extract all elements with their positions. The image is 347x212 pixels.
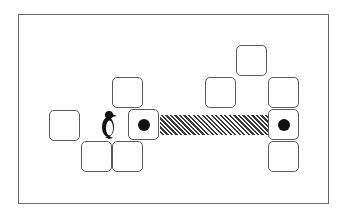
- tile-left-bottom-2: [112, 141, 143, 172]
- tile-left-dot: [128, 109, 159, 140]
- tile-right-mid-left: [205, 77, 236, 108]
- tile-right-dot: [268, 109, 299, 140]
- tile-left-single: [49, 110, 80, 141]
- hatched-bridge: [160, 115, 268, 135]
- tile-right-top: [236, 45, 267, 76]
- penguin-icon: [100, 110, 118, 140]
- tile-left-upper: [112, 77, 143, 108]
- tile-right-col-3: [268, 141, 299, 172]
- target-dot-icon: [278, 119, 290, 131]
- target-dot-icon: [138, 119, 150, 131]
- tile-left-bottom-1: [81, 141, 112, 172]
- tile-right-col-1: [268, 77, 299, 108]
